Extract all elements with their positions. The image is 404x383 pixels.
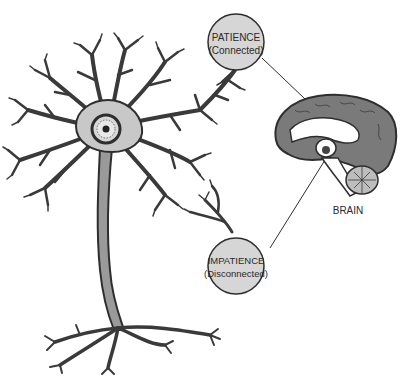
- brain-label: BRAIN: [333, 205, 364, 216]
- patience-title: PATIENCE: [212, 32, 261, 43]
- patience-node: PATIENCE (Connected): [208, 14, 264, 70]
- impatience-to-brain-line: [270, 152, 330, 248]
- nucleolus: [103, 126, 110, 133]
- impatience-node: IMPATIENCE (Disconnected): [204, 238, 268, 294]
- neuron-brain-diagram: PATIENCE (Connected) IMPATIENCE (Disconn…: [0, 0, 404, 383]
- cell-body: [76, 100, 142, 152]
- patience-subtitle: (Connected): [208, 45, 263, 56]
- brain-illustration: [275, 95, 396, 196]
- impatience-subtitle: (Disconnected): [204, 268, 268, 279]
- impatience-title: IMPATIENCE: [208, 255, 265, 266]
- disconnected-dendrite: [184, 180, 232, 232]
- axon-terminals: [45, 325, 220, 374]
- axon: [98, 148, 124, 330]
